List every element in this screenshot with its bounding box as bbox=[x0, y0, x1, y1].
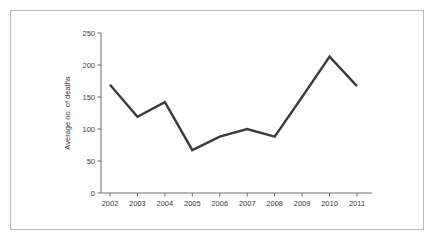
x-tick-label: 2009 bbox=[294, 199, 311, 208]
chart-render-group: 0501001502002502002200320042005200620072… bbox=[63, 29, 372, 208]
y-tick-label: 250 bbox=[82, 29, 95, 38]
y-tick-label: 100 bbox=[82, 125, 95, 134]
x-tick-label: 2007 bbox=[239, 199, 256, 208]
x-tick-label: 2004 bbox=[157, 199, 174, 208]
y-tick-label: 50 bbox=[87, 157, 95, 166]
x-tick-label: 2003 bbox=[129, 199, 146, 208]
x-tick-label: 2010 bbox=[321, 199, 338, 208]
y-axis-title: Average no. of deaths bbox=[63, 76, 72, 149]
data-series-line bbox=[110, 57, 357, 150]
x-tick-label: 2011 bbox=[349, 199, 365, 208]
y-tick-label: 200 bbox=[82, 61, 95, 70]
x-tick-label: 2008 bbox=[266, 199, 283, 208]
line-chart: 0501001502002502002200320042005200620072… bbox=[0, 0, 435, 242]
y-tick-label: 150 bbox=[82, 93, 95, 102]
x-tick-label: 2005 bbox=[184, 199, 201, 208]
y-tick-label: 0 bbox=[91, 189, 95, 198]
x-tick-label: 2006 bbox=[211, 199, 228, 208]
x-tick-label: 2002 bbox=[102, 199, 119, 208]
